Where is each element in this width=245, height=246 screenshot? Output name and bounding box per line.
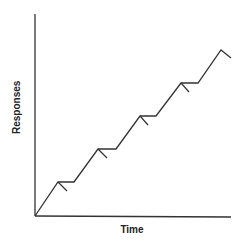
cumulative-record-chart: Responses Time — [0, 0, 245, 246]
reinforcement-mark — [140, 116, 148, 125]
response-line — [35, 50, 231, 216]
x-axis — [35, 216, 231, 217]
y-axis-label: Responses — [11, 104, 25, 134]
x-axis-label: Time — [112, 224, 152, 235]
reinforcement-mark — [58, 182, 67, 191]
plot-area — [0, 0, 245, 246]
reinforcement-mark — [181, 83, 189, 92]
reinforcement-mark — [98, 149, 107, 158]
